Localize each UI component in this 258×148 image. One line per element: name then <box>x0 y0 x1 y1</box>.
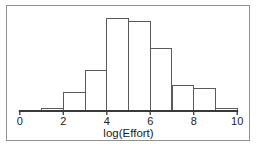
x-axis-tick-label: 8 <box>191 115 197 127</box>
histogram-bar <box>63 92 85 111</box>
histogram-bar <box>150 49 172 111</box>
histogram-plot: 0246810 log(Effort) <box>0 0 258 148</box>
x-axis-tick-label: 4 <box>104 115 110 127</box>
x-axis-tick-labels: 0246810 <box>17 115 244 127</box>
x-axis-tick-label: 0 <box>17 115 23 127</box>
histogram-figure: 0246810 log(Effort) <box>0 0 258 148</box>
histogram-bar <box>107 18 129 111</box>
histogram-bar <box>129 22 151 111</box>
x-axis-tick-label: 10 <box>231 115 243 127</box>
x-axis <box>19 111 238 115</box>
x-axis-tick-label: 2 <box>60 115 66 127</box>
x-axis-label: log(Effort) <box>103 127 153 139</box>
bars-group <box>42 18 238 111</box>
x-axis-tick-label: 6 <box>147 115 153 127</box>
histogram-bar <box>172 85 194 111</box>
histogram-bar <box>85 70 107 111</box>
histogram-bar <box>194 89 216 111</box>
